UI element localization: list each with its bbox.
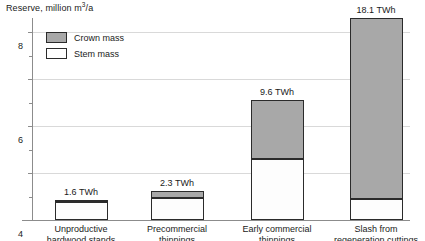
legend-swatch-stem-icon <box>46 48 67 59</box>
y-axis-title-suffix: /a <box>86 3 94 13</box>
bar-1: 1.6 TWh <box>55 200 108 220</box>
y-tick-minor-3 <box>29 150 33 151</box>
bar-2-stem-segment <box>151 198 204 220</box>
y-tick-4: 4 <box>28 126 33 127</box>
bar-4-stem-segment <box>350 199 403 220</box>
legend-item-stem-mass: Stem mass <box>46 48 124 59</box>
y-axis-title: Reserve, million m3/a <box>6 3 93 14</box>
y-tick-label-6: 6 <box>18 136 23 145</box>
y-tick-minor-1 <box>29 197 33 198</box>
bar-3-value-label: 9.6 TWh <box>260 87 294 97</box>
legend-label-crown-mass: Crown mass <box>74 33 124 43</box>
bar-4-value-label: 18.1 TWh <box>357 5 396 15</box>
category-label-4: Slash fromregeneration cuttings <box>316 224 425 241</box>
y-tick-minor-7 <box>29 56 33 57</box>
bar-1-stem-segment <box>55 202 108 220</box>
legend-item-crown-mass: Crown mass <box>46 32 124 43</box>
legend: Crown mass Stem mass <box>46 32 124 64</box>
bar-4: 18.1 TWh <box>350 18 403 220</box>
x-axis-line <box>22 220 410 221</box>
bar-3-stem-segment <box>251 159 304 220</box>
y-tick-minor-5 <box>29 103 33 104</box>
y-tick-6: 6 <box>28 79 33 80</box>
legend-swatch-crown-icon <box>46 32 67 43</box>
bar-4-crown-segment <box>350 18 403 199</box>
category-4-line-2: regeneration cuttings <box>316 235 425 241</box>
y-tick-2: 2 <box>28 173 33 174</box>
bar-2-value-label: 2.3 TWh <box>160 178 194 188</box>
bar-1-crown-segment <box>55 200 108 202</box>
bar-1-value-label: 1.6 TWh <box>64 187 98 197</box>
y-axis-line <box>32 18 33 220</box>
y-tick-8: 8 <box>28 32 33 33</box>
bar-3-crown-segment <box>251 100 304 159</box>
legend-label-stem-mass: Stem mass <box>74 49 119 59</box>
y-tick-label-8: 8 <box>18 42 23 51</box>
y-axis-title-text: Reserve, million m <box>6 3 82 13</box>
bar-2: 2.3 TWh <box>151 191 204 220</box>
bar-chart: Reserve, million m3/a 2468 1.6 TWh2.3 TW… <box>0 0 425 241</box>
bar-3: 9.6 TWh <box>251 100 304 220</box>
category-4-line-1: Slash from <box>316 224 425 235</box>
bar-2-crown-segment <box>151 191 204 198</box>
